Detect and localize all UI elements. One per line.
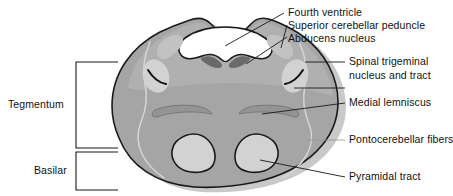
- label-spinal-trigeminal-line2: nucleus and tract: [349, 70, 431, 82]
- label-tegmentum: Tegmentum: [8, 99, 64, 111]
- label-abducens-nucleus: Abducens nucleus: [288, 33, 376, 45]
- label-basilar: Basilar: [34, 165, 67, 177]
- pyramidal-tract-right: [235, 134, 278, 172]
- label-spinal-trigeminal-line1: Spinal trigeminal: [349, 56, 428, 68]
- bracket-basilar: [76, 152, 118, 190]
- pyramidal-tract-left: [172, 134, 215, 172]
- label-superior-cerebellar-peduncle: Superior cerebellar peduncle: [288, 20, 425, 32]
- label-pontocerebellar-fibers: Pontocerebellar fibers: [349, 134, 453, 146]
- label-medial-lemniscus: Medial lemniscus: [349, 97, 431, 109]
- label-fourth-ventricle: Fourth ventricle: [288, 7, 362, 19]
- label-pyramidal-tract: Pyramidal tract: [349, 171, 421, 183]
